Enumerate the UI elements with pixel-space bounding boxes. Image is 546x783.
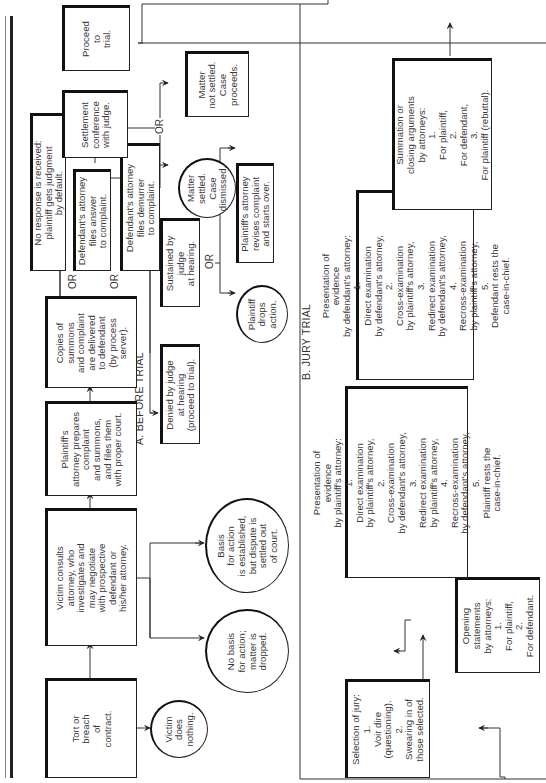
section-label-jury-trial: B. JURY TRIAL [300, 304, 312, 380]
or-label-4: OR [155, 118, 165, 135]
or-label-3: OR [205, 253, 215, 270]
node-no-response: No response is received: plaintiff gets … [30, 113, 66, 271]
node-proceed-to-trial: Proceed to trial. [62, 5, 130, 71]
node-files-answer: Defendant's attorney files answer to com… [73, 169, 111, 271]
node-defendant-evidence: Presentation of evidence by defendant's … [356, 190, 474, 380]
or-label-1: OR [68, 273, 78, 290]
flowchart-canvas: A. BEFORE TRIAL B. JURY TRIAL Tort or br… [0, 0, 546, 783]
node-copies-delivered: Copies of summons and complaint are deli… [45, 296, 137, 388]
node-files-demurrer: Defendant's attorney files demurrer to c… [120, 143, 160, 271]
node-sustained-by-judge: Sustained by judge at hearing. [160, 218, 200, 307]
node-plaintiff-evidence: Presentation of evidence by plaintiff's … [345, 386, 468, 578]
node-summation: Summation or closing arguments by attorn… [392, 58, 492, 210]
node-plaintiff-drops: Plaintiff drops action. [236, 285, 288, 343]
node-matter-not-settled: Matter not settled. Case proceeds. [185, 51, 249, 117]
node-settlement-conference: Settlement conference with judge. [62, 90, 128, 158]
node-matter-settled: Matter settled. Case dismissed. [178, 158, 236, 218]
node-victim-does-nothing: Victim does nothing. [150, 700, 208, 758]
node-tort: Tort or breach of contract. [45, 678, 137, 778]
node-selection-of-jury: Selection of jury: 1. Voir dire (questio… [345, 679, 430, 778]
node-plaintiff-revises: Plaintiff's attorney revises complaint a… [236, 163, 274, 263]
node-no-basis: No basis for action; matter is dropped. [205, 609, 289, 693]
node-denied-by-judge: Denied by judge at hearing (proceed to t… [160, 344, 200, 444]
node-victim-consults: Victim consults attorney, who investigat… [45, 508, 137, 646]
or-label-2: OR [110, 273, 120, 290]
node-basis-established: Basis for action is established, but dis… [205, 498, 289, 593]
node-plaintiff-prepares: Plaintiff's attorney prepares complaint … [45, 401, 137, 496]
node-opening-statements: Opening statements by attorneys: 1. For … [455, 577, 540, 673]
